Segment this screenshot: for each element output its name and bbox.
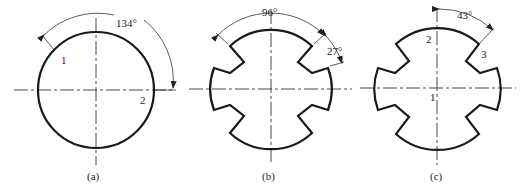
angle-label: 43°: [457, 9, 472, 21]
angle-label: 134°: [116, 17, 137, 29]
figure-c: 43° 1 2 3 (c): [360, 8, 516, 183]
angle-label-side: 27°: [327, 45, 342, 57]
point-label-2: 2: [426, 33, 432, 45]
point-label-3: 3: [481, 48, 487, 60]
point-label-1: 1: [430, 91, 436, 103]
figure-b: 96° 27° (b): [189, 6, 352, 183]
figure-caption: (a): [87, 170, 100, 183]
diagram-canvas: 134° 1 2 (a) 96° 27° (b) 43° 1 2 3 (c): [0, 0, 526, 195]
angle-label-top: 96°: [262, 6, 277, 18]
figure-caption: (c): [430, 170, 443, 183]
angle-dimension-arc: [144, 20, 173, 88]
point-label-1: 1: [61, 54, 67, 66]
extension-line: [42, 35, 54, 50]
figure-caption: (b): [262, 170, 275, 183]
point-label-2: 2: [140, 94, 146, 106]
figure-a: 134° 1 2 (a): [14, 13, 176, 183]
extension-line: [479, 28, 494, 44]
notched-disc-outline: [374, 28, 500, 150]
